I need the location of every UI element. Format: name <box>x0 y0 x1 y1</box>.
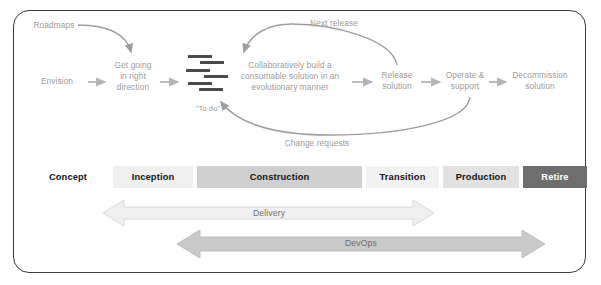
phase-transition-label: Transition <box>380 172 426 182</box>
backlog-icon <box>186 53 230 98</box>
phase-inception[interactable]: Inception <box>113 166 193 188</box>
flow-node-release: Release solution <box>372 70 422 92</box>
flow-node-decommission: Decommission solution <box>504 70 576 92</box>
delivery-span-label: Delivery <box>228 208 310 218</box>
phase-bar: Concept Inception Construction Transitio… <box>27 166 573 188</box>
phase-inception-label: Inception <box>132 172 175 182</box>
phase-construction-label: Construction <box>250 172 310 182</box>
annotation-roadmaps: Roadmaps <box>28 20 80 31</box>
annotation-change-requests: Change requests <box>262 138 372 149</box>
phase-construction[interactable]: Construction <box>197 166 362 188</box>
phase-transition[interactable]: Transition <box>366 166 439 188</box>
backlog-label: "To do" <box>183 104 233 113</box>
diagram-canvas: Envision Get going in right direction "T… <box>0 0 601 285</box>
flow-node-operate: Operate & support <box>438 70 492 92</box>
phase-concept-label: Concept <box>49 172 87 182</box>
phase-retire[interactable]: Retire <box>523 166 587 188</box>
flow-node-get-going: Get going in right direction <box>104 60 162 94</box>
phase-production-label: Production <box>456 172 507 182</box>
phase-concept[interactable]: Concept <box>27 166 109 188</box>
flow-node-envision: Envision <box>26 76 88 87</box>
phase-retire-label: Retire <box>541 172 568 182</box>
flow-node-build: Collaboratively build a consumable solut… <box>226 60 354 94</box>
phase-production[interactable]: Production <box>443 166 519 188</box>
annotation-next-release: Next release <box>295 18 373 29</box>
devops-span-label: DevOps <box>320 238 402 248</box>
